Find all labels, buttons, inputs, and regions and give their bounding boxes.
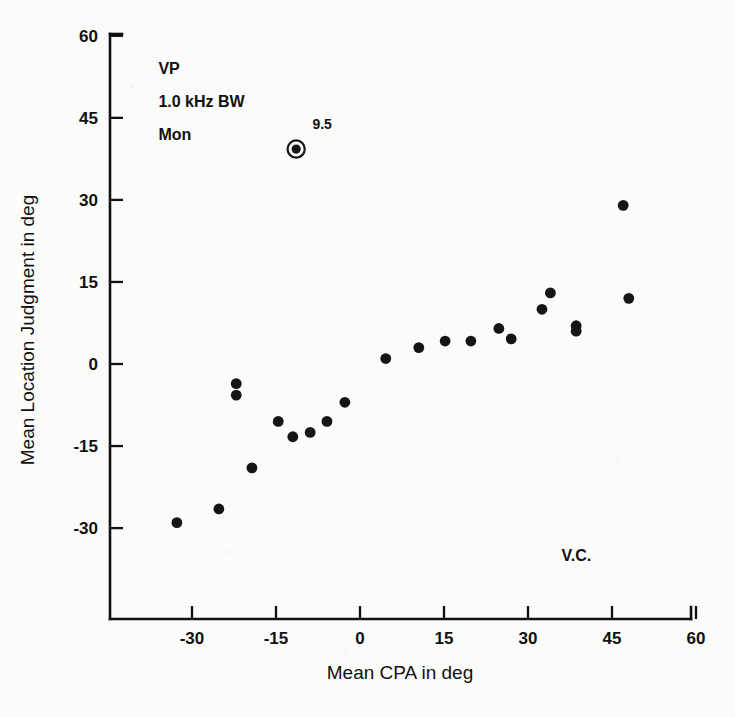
data-marker	[618, 200, 629, 211]
data-marker	[623, 293, 634, 304]
y-tick-label-45: 45	[79, 109, 98, 128]
y-tick-label-0: 0	[89, 355, 98, 374]
y-axis-tick-labels: -30-15015304560	[73, 27, 98, 538]
axes-frame	[110, 34, 691, 619]
data-marker	[213, 504, 224, 515]
y-axis-ticks	[110, 36, 123, 528]
x-tick-label--15: -15	[264, 629, 289, 648]
y-tick-label-30: 30	[79, 191, 98, 210]
condition-bandwidth: 1.0 kHz BW	[158, 93, 245, 110]
data-point	[213, 504, 224, 515]
data-point	[440, 336, 451, 347]
data-point	[288, 140, 305, 157]
data-marker	[231, 390, 242, 401]
data-marker	[171, 517, 182, 528]
x-axis-tick-labels: -30-15015304560	[180, 629, 706, 648]
data-point	[322, 416, 333, 427]
data-marker	[537, 304, 548, 315]
data-marker	[231, 378, 242, 389]
y-axis-title: Mean Location Judgment in deg	[17, 195, 38, 465]
subject-initials: V.C.	[562, 547, 592, 564]
plot-annotations: VP1.0 kHz BWMon9.5V.C.	[158, 60, 591, 564]
point-value-label: 9.5	[312, 116, 332, 132]
data-point	[171, 517, 182, 528]
data-marker	[322, 416, 333, 427]
data-marker	[339, 397, 350, 408]
data-point	[231, 390, 242, 401]
data-marker	[305, 427, 316, 438]
x-tick-label--30: -30	[180, 629, 205, 648]
data-point	[537, 304, 548, 315]
data-point	[305, 427, 316, 438]
data-point	[545, 287, 556, 298]
data-point	[571, 326, 582, 337]
x-tick-label-30: 30	[519, 629, 538, 648]
x-tick-label-0: 0	[355, 629, 364, 648]
data-marker	[571, 326, 582, 337]
y-tick-label--30: -30	[73, 519, 98, 538]
data-marker	[247, 463, 258, 474]
data-point-series	[171, 140, 634, 528]
x-tick-label-45: 45	[603, 629, 622, 648]
data-point	[465, 336, 476, 347]
data-point	[380, 353, 391, 364]
y-tick-label--15: -15	[73, 437, 98, 456]
data-point	[247, 463, 258, 474]
scatter-plot: -30-15015304560 -30-15015304560 VP1.0 kH…	[0, 0, 735, 717]
condition-vp: VP	[158, 60, 180, 77]
y-tick-label-15: 15	[79, 273, 98, 292]
y-tick-label-60: 60	[79, 27, 98, 46]
data-marker	[273, 416, 284, 427]
data-marker	[380, 353, 391, 364]
data-point	[339, 397, 350, 408]
x-tick-label-15: 15	[435, 629, 454, 648]
data-point	[231, 378, 242, 389]
data-marker	[465, 336, 476, 347]
x-axis-ticks	[192, 606, 696, 619]
data-point	[493, 323, 504, 334]
data-point	[273, 416, 284, 427]
x-axis-title: Mean CPA in deg	[327, 662, 473, 683]
highlighted-data-marker	[292, 144, 301, 153]
data-marker	[545, 287, 556, 298]
data-point	[506, 333, 517, 344]
data-point	[618, 200, 629, 211]
figure-container: -30-15015304560 -30-15015304560 VP1.0 kH…	[0, 0, 735, 717]
data-point	[287, 431, 298, 442]
data-point	[623, 293, 634, 304]
data-marker	[506, 333, 517, 344]
data-marker	[493, 323, 504, 334]
x-tick-label-60: 60	[687, 629, 706, 648]
condition-mon: Mon	[158, 126, 191, 143]
data-marker	[440, 336, 451, 347]
data-point	[413, 342, 424, 353]
data-marker	[287, 431, 298, 442]
data-marker	[413, 342, 424, 353]
